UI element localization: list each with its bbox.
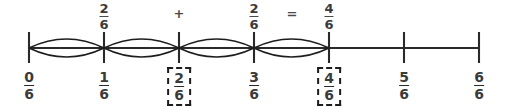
number-line-figure: 2 6 + 2 6 = 4 6 0 6 1 6 2 6 3 6 <box>0 0 505 110</box>
number-line-graphic <box>0 0 505 110</box>
